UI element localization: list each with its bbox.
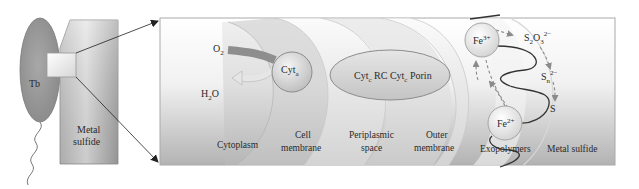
detail-panel: O2 H2O Cyta Cytc RC Cytc Porin Fe3+ Fe2+… bbox=[160, 15, 615, 170]
mineral-label-line2: sulfide bbox=[73, 136, 101, 147]
sulfur-label: S bbox=[550, 103, 556, 114]
cell-label: Tb bbox=[29, 78, 40, 89]
region-exopolymers-label: Exopolymers bbox=[480, 144, 531, 154]
region-outer-membrane-label-2: membrane bbox=[414, 143, 454, 153]
region-outer-membrane-label-1: Outer bbox=[426, 130, 448, 140]
region-metal-sulfide-label: Metal sulfide bbox=[547, 144, 597, 154]
mineral-label-line1: Metal bbox=[77, 124, 101, 135]
region-periplasmic-label-1: Periplasmic bbox=[349, 130, 394, 140]
region-cell-membrane-label-1: Cell bbox=[295, 130, 311, 140]
diagram-canvas: Tb Metal sulfide bbox=[0, 0, 639, 189]
flagellum bbox=[27, 122, 41, 185]
region-cell-membrane-label-2: membrane bbox=[281, 143, 321, 153]
region-periplasmic-label-2: space bbox=[361, 143, 382, 153]
overview-group: Tb Metal sulfide bbox=[20, 18, 158, 185]
region-cytoplasm-label: Cytoplasm bbox=[217, 140, 259, 150]
zoom-region-box bbox=[47, 53, 76, 77]
